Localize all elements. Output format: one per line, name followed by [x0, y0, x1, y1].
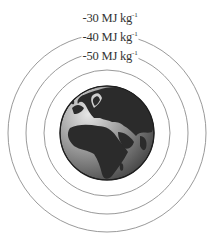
potential-exponent: -1 [132, 11, 137, 19]
potential-exponent: -1 [132, 30, 137, 38]
potential-value: -30 [82, 11, 98, 25]
potential-unit: MJ kg [101, 11, 132, 25]
earth-globe-icon [60, 86, 156, 180]
equipotential-label-40: -40 MJ kg-1 [81, 31, 138, 44]
potential-exponent: -1 [132, 49, 137, 57]
potential-value: -50 [82, 49, 98, 63]
potential-unit: MJ kg [101, 49, 132, 63]
potential-unit: MJ kg [101, 30, 132, 44]
equipotential-label-50: -50 MJ kg-1 [81, 50, 138, 63]
potential-value: -40 [82, 30, 98, 44]
equipotential-label-30: -30 MJ kg-1 [81, 12, 138, 25]
